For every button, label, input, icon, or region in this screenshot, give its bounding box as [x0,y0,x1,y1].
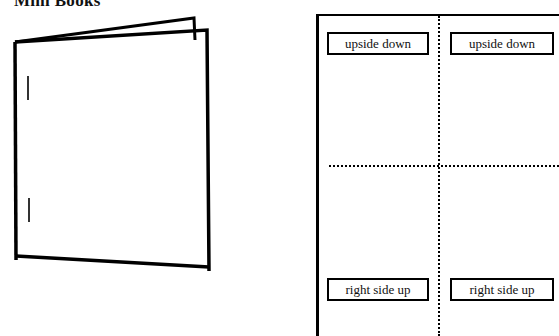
panel-label-top-right: upside down [450,32,554,55]
panel-label-top-left: upside down [327,32,429,55]
vertical-fold-line [438,16,440,336]
mini-book-illustration [0,0,240,290]
panel-label-bottom-right: right side up [450,278,554,301]
horizontal-fold-line [329,165,559,167]
fold-template-sheet: upside down upside down right side up ri… [316,14,559,336]
panel-label-bottom-left: right side up [327,278,429,301]
